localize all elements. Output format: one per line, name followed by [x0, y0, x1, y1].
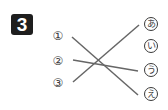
- right-item-e[interactable]: え: [144, 87, 158, 101]
- right-item-circles: [0, 0, 168, 110]
- right-item-u[interactable]: う: [144, 63, 158, 77]
- right-item-a[interactable]: あ: [144, 17, 158, 31]
- right-item-i[interactable]: い: [144, 39, 158, 53]
